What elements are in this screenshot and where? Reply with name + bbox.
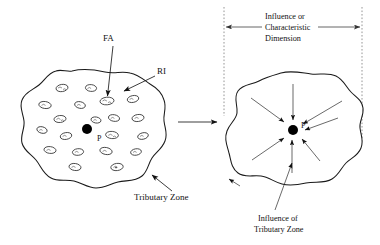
diagram-root: P FA RI Tributary Zone Influence or Char… [0, 0, 380, 245]
influence-of-label-line1: Influence of [258, 214, 298, 223]
dimension-label-line1: Influence or [265, 12, 305, 21]
fa-label: FA [103, 33, 114, 43]
influence-of-label-line2: Tributary Zone [254, 225, 304, 234]
point-p-right [288, 125, 298, 135]
point-p-left-label: P [97, 134, 102, 143]
tributary-influence-diagram: P FA RI Tributary Zone Influence or Char… [0, 0, 380, 245]
ri-label: RI [157, 66, 166, 76]
dimension-label-line2: Characteristic [265, 23, 311, 32]
tributary-zone-label: Tributary Zone [134, 192, 188, 202]
dimension-label-line3: Dimension [265, 34, 301, 43]
point-p-left [82, 124, 92, 134]
point-p-right-label: P [301, 121, 306, 130]
